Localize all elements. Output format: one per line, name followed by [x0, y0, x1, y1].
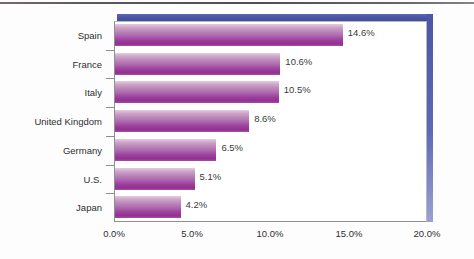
bar-row: 5.1% [115, 165, 427, 194]
y-axis-label-united-kingdom: United Kingdom [34, 116, 102, 127]
x-axis-label-20: 20.0% [414, 228, 441, 239]
y-axis-label-italy: Italy [85, 87, 102, 98]
bar-value-label-united-kingdom: 8.6% [254, 113, 276, 124]
bar-value-label-spain: 14.6% [348, 27, 375, 38]
bar-spain[interactable] [115, 24, 343, 46]
bar-row: 8.6% [115, 107, 427, 136]
y-axis-tick [106, 165, 114, 166]
bar-us[interactable] [115, 168, 195, 190]
y-axis-label-spain: Spain [78, 30, 102, 41]
bar-germany[interactable] [115, 139, 216, 161]
bar-value-label-italy: 10.5% [284, 84, 311, 95]
bar-row: 6.5% [115, 136, 427, 165]
bar-value-label-japan: 4.2% [186, 199, 208, 210]
bar-row: 10.5% [115, 78, 427, 107]
x-axis-tick-labels: 0.0% 5.0% 10.0% 15.0% 20.0% [0, 228, 474, 242]
chart-frame-right-accent [427, 14, 433, 222]
y-axis-label-germany: Germany [63, 145, 102, 156]
bar-japan[interactable] [115, 196, 181, 218]
y-axis-tick [106, 136, 114, 137]
chart-frame-top-accent [117, 14, 430, 21]
y-axis-tick [106, 78, 114, 79]
bar-row: 14.6% [115, 21, 427, 50]
y-axis-label-us: U.S. [84, 174, 102, 185]
y-axis-label-japan: Japan [76, 202, 102, 213]
x-axis-label-0: 0.0% [103, 228, 125, 239]
y-axis-tick [106, 193, 114, 194]
bar-chart: 14.6% 10.6% 10.5% 8.6% 6.5% 5.1% [114, 21, 427, 222]
bar-row: 10.6% [115, 50, 427, 79]
y-axis-tick [106, 107, 114, 108]
bar-row: 4.2% [115, 193, 427, 222]
page-top-rule [0, 2, 474, 4]
y-axis-category-labels: Spain France Italy United Kingdom German… [0, 21, 110, 222]
x-axis-label-5: 5.0% [181, 228, 203, 239]
y-axis-label-france: France [72, 59, 102, 70]
bar-value-label-germany: 6.5% [221, 142, 243, 153]
bar-italy[interactable] [115, 81, 279, 103]
x-axis-label-10: 10.0% [257, 228, 284, 239]
bar-series: 14.6% 10.6% 10.5% 8.6% 6.5% 5.1% [115, 21, 427, 222]
y-axis-tick [106, 50, 114, 51]
bar-value-label-us: 5.1% [200, 171, 222, 182]
bar-united-kingdom[interactable] [115, 110, 249, 132]
bar-france[interactable] [115, 53, 280, 75]
chart-page: Spain France Italy United Kingdom German… [0, 0, 474, 259]
x-axis-label-15: 15.0% [336, 228, 363, 239]
bar-value-label-france: 10.6% [285, 56, 312, 67]
